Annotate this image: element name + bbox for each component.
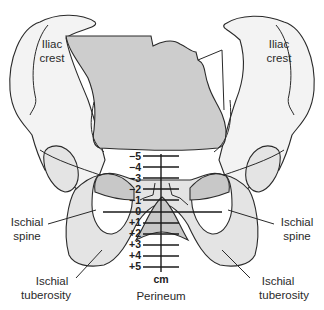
label-ischial-spine-right-2: spine — [283, 230, 311, 242]
label-ischial-tuberosity-right-1: Ischial — [262, 275, 295, 287]
label-ischial-tuberosity-right-2: tuberosity — [259, 289, 309, 301]
svg-text:+5: +5 — [129, 260, 141, 272]
label-iliac-crest-left-2: crest — [40, 52, 66, 64]
label-ischial-spine-right-1: Ischial — [281, 216, 314, 228]
scale-unit-label: cm — [153, 273, 168, 285]
label-perineum: Perineum — [136, 290, 185, 302]
label-iliac-crest-left-1: Iliac — [42, 38, 63, 50]
pelvis-diagram: −5 −4 −3 −2 −1 0 +1 +2 +3 +4 +5 cm Iliac… — [0, 0, 324, 310]
label-ischial-spine-left-2: spine — [13, 230, 41, 242]
label-ischial-tuberosity-left-2: tuberosity — [21, 289, 71, 301]
label-ischial-tuberosity-left-1: Ischial — [36, 275, 69, 287]
label-ischial-spine-left-1: Ischial — [11, 216, 44, 228]
label-iliac-crest-right-1: Iliac — [269, 38, 290, 50]
label-iliac-crest-right-2: crest — [267, 52, 293, 64]
